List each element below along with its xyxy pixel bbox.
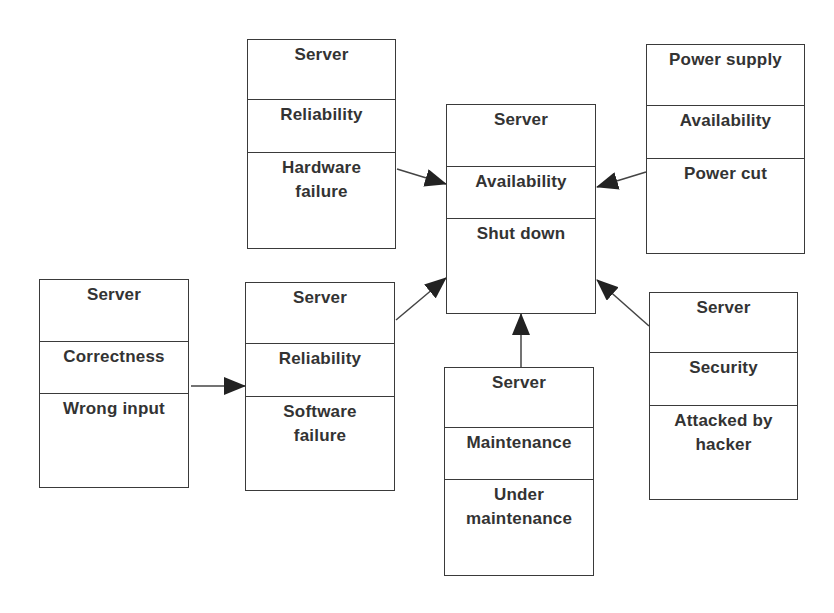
box-object: Server [650, 293, 797, 353]
box-power-cut: Power supply Availability Power cut [646, 44, 805, 254]
object-label: Server [445, 371, 593, 395]
box-object: Server [246, 283, 394, 344]
box-event: Software failure [246, 396, 394, 490]
box-attribute: Maintenance [445, 427, 593, 480]
event-label-line-1: Power cut [647, 162, 804, 186]
event-label-line-1: Shut down [447, 222, 595, 246]
object-label: Server [248, 43, 395, 67]
box-event: Attacked by hacker [650, 405, 797, 499]
box-object: Server [40, 280, 188, 342]
box-attribute: Reliability [248, 99, 395, 153]
attribute-label: Reliability [248, 103, 395, 127]
box-under-maintenance: Server Maintenance Under maintenance [444, 367, 594, 576]
object-label: Server [40, 283, 188, 307]
arrow-hardware-to-central [397, 169, 446, 184]
box-event: Shut down [447, 218, 595, 313]
box-event: Wrong input [40, 393, 188, 487]
box-object: Power supply [647, 45, 804, 106]
box-shut-down: Server Availability Shut down [446, 104, 596, 314]
object-label: Power supply [647, 48, 804, 72]
object-label: Server [246, 286, 394, 310]
box-object: Server [248, 40, 395, 100]
event-label-line-1: Attacked by [650, 409, 797, 433]
box-object: Server [445, 368, 593, 428]
event-label-line-2: hacker [650, 433, 797, 457]
box-attribute: Security [650, 352, 797, 406]
attribute-label: Maintenance [445, 431, 593, 455]
box-attribute: Correctness [40, 341, 188, 394]
event-label-line-1: Hardware [248, 156, 395, 180]
object-label: Server [447, 108, 595, 132]
box-attribute: Reliability [246, 343, 394, 397]
attribute-label: Availability [447, 170, 595, 194]
box-software-failure: Server Reliability Software failure [245, 282, 395, 491]
object-label: Server [650, 296, 797, 320]
box-object: Server [447, 105, 595, 167]
attribute-label: Reliability [246, 347, 394, 371]
box-event: Hardware failure [248, 152, 395, 248]
attribute-label: Availability [647, 109, 804, 133]
box-event: Power cut [647, 158, 804, 253]
box-wrong-input: Server Correctness Wrong input [39, 279, 189, 488]
box-attribute: Availability [447, 166, 595, 219]
event-label-line-1: Software [246, 400, 394, 424]
event-label-line-2: failure [248, 180, 395, 204]
box-attacked-by-hacker: Server Security Attacked by hacker [649, 292, 798, 500]
box-attribute: Availability [647, 105, 804, 159]
attribute-label: Security [650, 356, 797, 380]
event-label-line-2: failure [246, 424, 394, 448]
event-label-line-2: maintenance [445, 507, 593, 531]
event-label-line-1: Under [445, 483, 593, 507]
arrow-power-to-central [597, 172, 646, 187]
arrow-software-to-central [396, 278, 446, 320]
event-label-line-1: Wrong input [40, 397, 188, 421]
box-event: Under maintenance [445, 479, 593, 575]
diagram-canvas: Server Reliability Hardware failure Serv… [0, 0, 834, 613]
arrow-security-to-central [597, 280, 649, 326]
box-hardware-failure: Server Reliability Hardware failure [247, 39, 396, 249]
attribute-label: Correctness [40, 345, 188, 369]
